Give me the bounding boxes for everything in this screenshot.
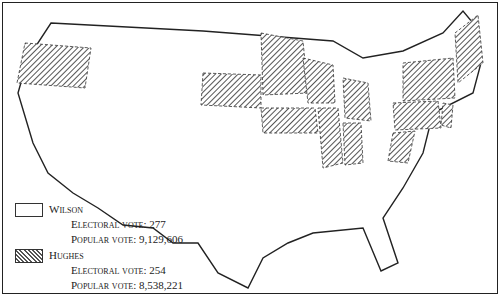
wilson-electoral: Electoral vote: 277 [71, 218, 166, 230]
wilson-popular: Popular vote: 9,129,606 [71, 233, 183, 245]
map-frame: Wilson Electoral vote: 277 Popular vote:… [2, 2, 498, 294]
hughes-label: Hughes [49, 249, 84, 261]
wilson-swatch [15, 203, 43, 217]
state-oregon [17, 43, 91, 88]
state-iowa [261, 108, 318, 133]
hughes-swatch [15, 249, 43, 263]
state-pennsylvania [393, 101, 441, 130]
state-south-dakota [201, 73, 261, 108]
state-michigan [343, 78, 371, 121]
state-new-jersey [441, 103, 453, 128]
hughes-electoral: Electoral vote: 254 [71, 264, 166, 276]
state-wisconsin [303, 58, 335, 103]
hughes-popular: Popular vote: 8,538,221 [71, 279, 183, 291]
state-minnesota [261, 33, 308, 95]
state-indiana [343, 123, 363, 165]
state-new-york [403, 58, 455, 101]
wilson-label: Wilson [49, 203, 83, 215]
